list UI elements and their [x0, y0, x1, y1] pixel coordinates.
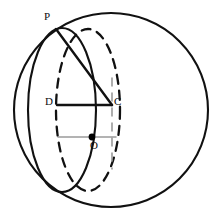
geometry-figure: P D C O	[0, 0, 217, 220]
point-label-P: P	[44, 11, 50, 22]
point-label-C: C	[114, 96, 121, 107]
great-circle-edge-solid	[28, 28, 96, 192]
cross-section-circle-dashed	[56, 29, 120, 191]
figure-canvas	[0, 0, 217, 220]
segment-P-C	[56, 29, 112, 105]
point-label-O: O	[90, 140, 98, 151]
point-label-D: D	[45, 96, 53, 107]
